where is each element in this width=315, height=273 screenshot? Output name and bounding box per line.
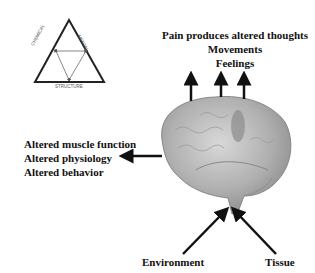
- top-label-thoughts: Pain produces altered thoughts: [150, 29, 315, 42]
- brain-illustration: [162, 96, 291, 214]
- triangle-diagram: [35, 20, 104, 82]
- left-label-behavior: Altered behavior: [24, 165, 104, 179]
- bottom-arrows: [183, 212, 276, 254]
- bottom-label-environment: Environment: [142, 256, 204, 268]
- triangle-label-structure: STRUCTURE: [55, 84, 83, 89]
- left-label-physiology: Altered physiology: [24, 151, 112, 165]
- top-label-movements: Movements: [150, 43, 315, 56]
- bottom-label-tissue: Tissue: [265, 256, 295, 268]
- top-label-feelings: Feelings: [150, 57, 315, 70]
- left-label-muscle: Altered muscle function: [24, 137, 136, 151]
